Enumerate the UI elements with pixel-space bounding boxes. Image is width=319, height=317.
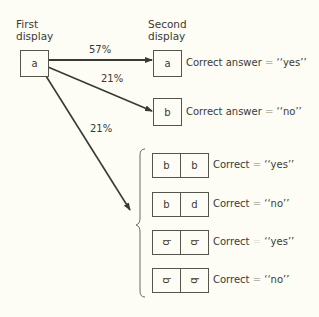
answer-label: Correct answer = ‘‘yes’’: [186, 57, 307, 68]
answer-value: ‘‘yes’’: [264, 236, 294, 247]
first-display-heading: First display: [16, 18, 53, 42]
answer-value: ‘‘no’’: [277, 106, 302, 117]
equals-sign: =: [253, 198, 261, 209]
rotated-cell-letter: b: [161, 277, 172, 283]
pair-cell-right: b: [180, 231, 208, 254]
heading-line: Second: [148, 18, 187, 30]
answer-prefix: Correct: [213, 198, 250, 209]
box-letter: b: [164, 107, 170, 118]
answer-value: ‘‘yes’’: [277, 57, 307, 68]
percent-label-57: 57%: [89, 44, 111, 55]
box-letter: a: [31, 58, 37, 69]
rotated-cell-letter: d: [189, 277, 200, 283]
pair-answer-label: Correct = ‘‘no’’: [213, 274, 289, 285]
pair-cell-right: d: [180, 193, 208, 216]
pair-cell-right: d: [180, 269, 208, 292]
answer-prefix: Correct answer: [186, 106, 262, 117]
percent-label-21-b: 21%: [101, 73, 123, 84]
pair-box-2: b d: [152, 192, 209, 217]
second-display-box-b: b: [153, 98, 182, 126]
box-letter: a: [164, 58, 170, 69]
pair-cell-left: b: [153, 154, 180, 177]
pair-box-1: b b: [152, 153, 209, 178]
second-display-heading: Second display: [148, 18, 187, 42]
pair-cell-left: b: [153, 231, 180, 254]
cell-letter: b: [163, 160, 169, 171]
pair-cell-right: b: [180, 154, 208, 177]
heading-line: display: [16, 30, 53, 42]
answer-value: ‘‘yes’’: [264, 159, 294, 170]
equals-sign: =: [265, 57, 273, 68]
pair-cell-left: b: [153, 269, 180, 292]
answer-prefix: Correct: [213, 236, 250, 247]
equals-sign: =: [253, 159, 261, 170]
rotated-cell-letter: b: [189, 239, 200, 245]
cell-letter: b: [191, 160, 197, 171]
equals-sign: =: [253, 274, 261, 285]
heading-line: display: [148, 30, 187, 42]
curly-brace: [136, 149, 145, 297]
equals-sign: =: [265, 106, 273, 117]
pair-cell-left: b: [153, 193, 180, 216]
rotated-cell-letter: b: [161, 239, 172, 245]
answer-prefix: Correct answer: [186, 57, 262, 68]
cell-letter: b: [163, 199, 169, 210]
answer-value: ‘‘no’’: [264, 274, 289, 285]
equals-sign: =: [253, 236, 261, 247]
first-display-box: a: [20, 50, 49, 77]
pair-answer-label: Correct = ‘‘yes’’: [213, 236, 294, 247]
answer-prefix: Correct: [213, 159, 250, 170]
pair-answer-label: Correct = ‘‘no’’: [213, 198, 289, 209]
second-display-box-a: a: [153, 50, 182, 77]
pair-box-3-rotated: b b: [152, 230, 209, 255]
cell-letter: d: [191, 199, 197, 210]
answer-value: ‘‘no’’: [264, 198, 289, 209]
answer-label: Correct answer = ‘‘no’’: [186, 106, 302, 117]
pair-answer-label: Correct = ‘‘yes’’: [213, 159, 294, 170]
heading-line: First: [16, 18, 53, 30]
answer-prefix: Correct: [213, 274, 250, 285]
percent-label-21-pairs: 21%: [90, 123, 112, 134]
pair-box-4-rotated: b d: [152, 268, 209, 293]
